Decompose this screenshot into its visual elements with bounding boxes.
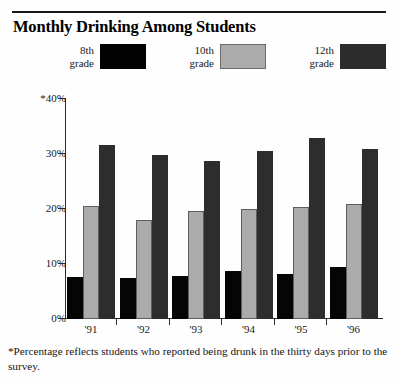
bar (225, 271, 241, 319)
x-tick-mark (169, 318, 170, 325)
bar (83, 206, 99, 319)
x-axis-label: '94 (224, 323, 274, 335)
x-axis-label: '95 (276, 323, 326, 335)
x-axis-label: '91 (66, 323, 116, 335)
bar-group-bars (225, 98, 273, 319)
bar (257, 151, 273, 319)
bar-group-bars (67, 98, 115, 319)
bar (330, 267, 346, 319)
x-tick-mark (221, 318, 222, 325)
bar-group-bars (277, 98, 325, 319)
y-tick-0pct: 0% (0, 313, 66, 324)
bar (362, 149, 378, 320)
bar (67, 277, 83, 319)
bar (346, 204, 362, 320)
bar (241, 209, 257, 319)
bar (309, 138, 325, 320)
bar (120, 278, 136, 319)
y-tick-30pct: 30% (0, 148, 66, 159)
bar (188, 211, 204, 319)
x-tick-mark (326, 318, 327, 325)
y-tick-10pct: 10% (0, 258, 66, 269)
x-axis-label: '93 (171, 323, 221, 335)
y-tick-mark (58, 208, 66, 209)
y-tick-mark (58, 263, 66, 264)
y-tick-mark (58, 318, 66, 319)
bar (152, 155, 168, 319)
y-tick-20pct: 20% (0, 203, 66, 214)
bar (277, 274, 293, 319)
plot-area: 0%10%20%30%*40% '91'92'93'94'95'96 (0, 0, 397, 340)
bar-group-bars (330, 98, 378, 319)
chart-page: Monthly Drinking Among Students 8th grad… (0, 0, 397, 383)
bar (136, 220, 152, 319)
bar (204, 161, 220, 319)
bar-group-bars (120, 98, 168, 319)
x-axis-label: '92 (119, 323, 169, 335)
bar (172, 276, 188, 319)
bar-group-bars (172, 98, 220, 319)
bar (99, 145, 115, 319)
y-tick-mark (58, 98, 66, 99)
bar (293, 207, 309, 319)
y-tick-mark (58, 153, 66, 154)
x-tick-mark (116, 318, 117, 325)
chart-footnote: *Percentage reflects students who report… (8, 344, 392, 373)
x-tick-mark (274, 318, 275, 325)
y-tick-40pct: *40% (0, 93, 66, 104)
x-axis-label: '96 (329, 323, 379, 335)
